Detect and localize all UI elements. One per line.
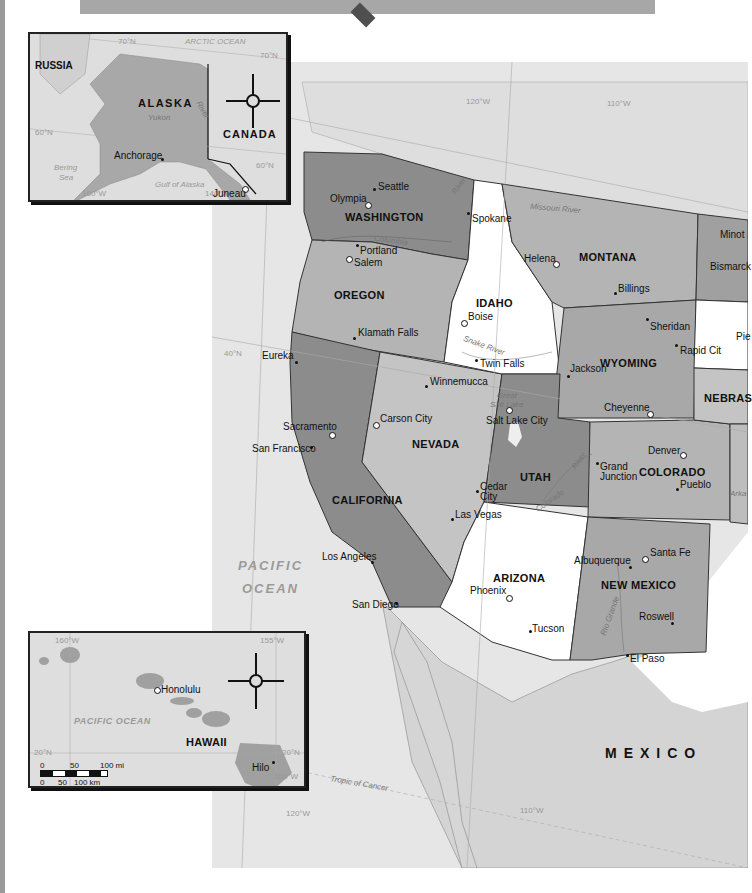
scale-mi-0: 0 <box>118 199 122 202</box>
gulf-label-alaska: Gulf of Alaska <box>155 181 205 189</box>
city-label-pierre: Pie <box>736 332 750 342</box>
city-label-twin-falls: Twin Falls <box>480 359 524 369</box>
capital-marker-carson-city <box>373 422 380 429</box>
scale-km-0: 0 <box>40 778 44 787</box>
capital-marker-salt-lake-city <box>506 407 513 414</box>
state-label-california: CALIFORNIA <box>332 495 403 506</box>
grid-label-120w-bottom: 120°W <box>286 810 310 818</box>
state-label-nebraska: NEBRAS <box>704 393 752 404</box>
city-label-seattle: Seattle <box>378 182 409 192</box>
scale-km-50: 50 <box>58 778 67 787</box>
grid-label-70n: 70°N <box>118 38 136 46</box>
river-label-arkansas: Arka <box>730 490 746 498</box>
city-label-el-paso: El Paso <box>630 654 664 664</box>
city-dot-seattle <box>373 188 376 191</box>
scale-mi-50: 50 <box>70 761 79 770</box>
scale-km-100: 100 km <box>74 778 100 787</box>
ocean-label-pacific: PACIFIC <box>238 559 303 572</box>
city-dot-billings <box>614 292 617 295</box>
city-dot-spokane <box>467 212 470 215</box>
city-label-portland: Portland <box>360 246 397 256</box>
state-label-utah: UTAH <box>520 472 551 483</box>
city-label-anchorage: Anchorage <box>114 151 162 161</box>
city-label-phoenix: Phoenix <box>470 586 506 596</box>
city-label-klamath-falls: Klamath Falls <box>358 328 419 338</box>
river-label-yukon: Yukon <box>148 114 170 122</box>
city-label-rapid-city: Rapid Cit <box>680 346 721 356</box>
city-dot-las-vegas <box>451 518 454 521</box>
city-label-albuquerque: Albuquerque <box>574 556 631 566</box>
city-label-grand-junction: Grand Junction <box>600 462 646 482</box>
city-label-santa-fe: Santa Fe <box>650 548 691 558</box>
ocean-label-arctic: ARCTIC OCEAN <box>185 38 245 46</box>
grid-label-60n-right: 60°N <box>256 162 274 170</box>
state-label-nevada: NEVADA <box>412 439 459 450</box>
lake-label-great: Great <box>497 392 517 400</box>
city-label-eureka: Eureka <box>262 351 294 361</box>
city-label-salt-lake-city: Salt Lake City <box>486 416 548 426</box>
city-label-sheridan: Sheridan <box>650 322 690 332</box>
city-label-juneau: Juneau <box>213 189 246 199</box>
grid-label-155w-bottom: 155°W <box>274 773 298 781</box>
city-dot-portland <box>356 244 359 247</box>
page-edge-strip <box>0 0 5 893</box>
city-label-los-angeles: Los Angeles <box>322 552 377 562</box>
city-label-san-francisco: San Francisco <box>252 444 316 454</box>
city-label-olympia: Olympia <box>330 194 367 204</box>
state-label-new-mexico: NEW MEXICO <box>601 580 676 591</box>
city-label-roswell: Roswell <box>639 612 674 622</box>
capital-marker-boise <box>461 320 468 327</box>
alaska-inset-map: RUSSIA ALASKA CANADA ARCTIC OCEAN Bering… <box>28 32 288 202</box>
city-dot-sheridan <box>646 318 649 321</box>
city-dot-klamath-falls <box>353 337 356 340</box>
city-label-sacramento: Sacramento <box>283 422 337 432</box>
country-label-russia: RUSSIA <box>35 61 73 71</box>
state-label-washington: WASHINGTON <box>345 212 424 223</box>
state-label-idaho: IDAHO <box>476 298 513 309</box>
city-dot-albuquerque <box>629 566 632 569</box>
city-label-bismarck: Bismarck <box>710 262 751 272</box>
city-label-tucson: Tucson <box>532 624 564 634</box>
city-dot-roswell <box>671 622 674 625</box>
country-label-canada: CANADA <box>223 129 277 140</box>
country-label-mexico: MEXICO <box>605 746 702 760</box>
capital-marker-santa-fe <box>642 556 649 563</box>
grid-label-110w-bottom: 110°W <box>520 807 544 815</box>
scale-mi-250: 250 <box>148 199 161 202</box>
capital-marker-salem <box>346 256 353 263</box>
city-label-spokane: Spokane <box>472 214 511 224</box>
city-dot-el-paso <box>626 654 629 657</box>
grid-label-160w: 160°W <box>55 637 79 645</box>
city-dot-grand-junction <box>596 462 599 465</box>
state-label-oregon: OREGON <box>334 290 385 301</box>
scale-mi-500: 500 mi <box>186 199 210 202</box>
city-dot-jackson <box>567 375 570 378</box>
city-label-carson-city: Carson City <box>380 414 432 424</box>
hawaii-inset-map: 160°W 155°W 155°W 20°N 20°N PACIFIC OCEA… <box>28 631 306 788</box>
grid-label-155w: 155°W <box>260 637 284 645</box>
state-label-wyoming: WYOMING <box>600 358 657 369</box>
sea-label-bering-1: Bering <box>54 164 77 172</box>
city-label-billings: Billings <box>618 284 650 294</box>
ocean-label-pacific: PACIFIC OCEAN <box>74 717 151 726</box>
compass-rose-icon <box>226 74 280 128</box>
city-label-pueblo: Pueblo <box>680 480 711 490</box>
state-label-montana: MONTANA <box>579 252 637 263</box>
capital-marker-sacramento <box>329 432 336 439</box>
grid-label-110w: 110°W <box>607 100 631 108</box>
scale-mi-0: 0 <box>40 761 44 770</box>
grid-label-120w: 120°W <box>466 98 490 106</box>
city-dot-cedar-city <box>476 490 479 493</box>
ocean-label-ocean: OCEAN <box>242 582 299 595</box>
city-label-denver: Denver <box>648 446 680 456</box>
city-label-cedar-city: Cedar City <box>480 482 514 502</box>
city-dot-hilo <box>272 761 275 764</box>
city-dot-eureka <box>295 361 298 364</box>
city-dot-winnemucca <box>425 385 428 388</box>
city-label-las-vegas: Las Vegas <box>455 510 502 520</box>
grid-label-70n-right: 70°N <box>260 52 278 60</box>
state-label-hawaii: HAWAII <box>186 737 227 748</box>
compass-rose-icon <box>228 653 284 709</box>
grid-label-20n: 20°N <box>34 749 52 757</box>
city-label-cheyenne: Cheyenne <box>604 403 650 413</box>
